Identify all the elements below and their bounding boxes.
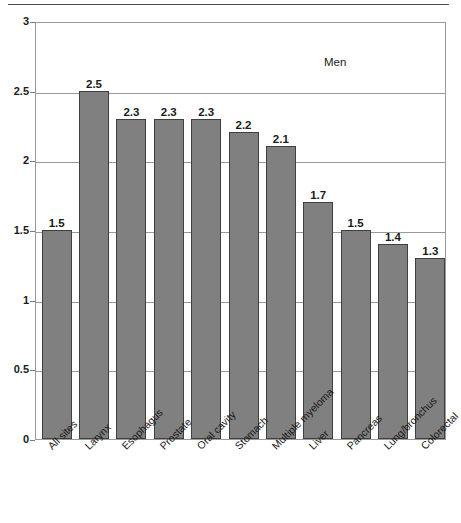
bar[interactable] [42,230,72,439]
y-axis-tick-label: 0.5 [5,364,29,375]
bar-value-label: 2.3 [148,106,190,118]
top-divider-rule [8,4,449,5]
y-axis-tick-label: 3 [5,16,29,27]
series-annotation-men: Men [324,56,346,68]
bar-value-label: 1.4 [372,231,414,243]
bar-value-label: 1.7 [297,189,339,201]
bar[interactable] [79,91,109,439]
bar[interactable] [229,132,259,439]
bar-value-label: 1.5 [335,217,377,229]
bar-value-label: 2.5 [73,78,115,90]
bar-value-label: 1.3 [409,245,451,257]
y-axis-tick-label: 2 [5,155,29,166]
bar-value-label: 2.1 [260,133,302,145]
bar[interactable] [266,146,296,439]
x-axis-category-labels: All sitesLarynxEsophagusProstateOral cav… [0,440,457,523]
y-axis-tick-label: 1.5 [5,225,29,236]
y-axis-tick-label: 1 [5,295,29,306]
bar[interactable] [191,119,221,439]
bar[interactable] [378,244,408,439]
y-axis-tick-label: 2.5 [5,86,29,97]
bar[interactable] [116,119,146,439]
bar[interactable] [154,119,184,439]
bar-value-label: 2.2 [223,119,265,131]
plot-area: 1.52.52.32.32.32.22.11.71.51.41.3 Men [35,22,446,440]
bar-value-label: 2.3 [185,106,227,118]
bar[interactable] [341,230,371,439]
bar-value-label: 1.5 [36,217,78,229]
bar-value-label: 2.3 [110,106,152,118]
